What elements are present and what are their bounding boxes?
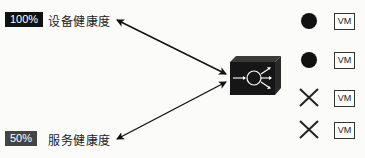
arrow-service-health <box>117 82 226 139</box>
load-balancer-icon <box>230 56 281 95</box>
vm-box: VM <box>334 52 355 69</box>
filled-circle-icon <box>301 13 317 29</box>
x-mark-icon <box>300 89 318 106</box>
vm-box: VM <box>334 122 355 139</box>
vm-box: VM <box>334 90 355 107</box>
arrow-device-health <box>117 20 226 74</box>
vm-box: VM <box>334 13 355 30</box>
x-mark-icon <box>300 121 318 138</box>
filled-circle-icon <box>301 52 317 68</box>
diagram-graphics <box>0 0 365 158</box>
